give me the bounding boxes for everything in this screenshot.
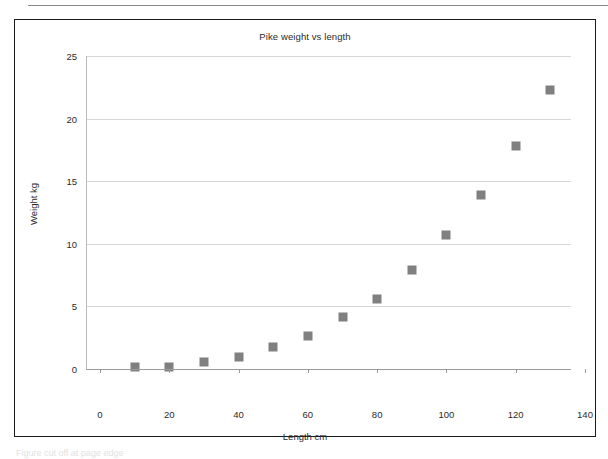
x-tick-mark <box>169 369 170 373</box>
x-tick-mark <box>100 369 101 373</box>
x-axis-title: Length cm <box>15 431 595 442</box>
y-tick-label: 5 <box>37 301 77 312</box>
x-tick-label: 60 <box>303 409 314 420</box>
y-tick-label: 0 <box>37 363 77 374</box>
y-tick-label: 20 <box>37 113 77 124</box>
x-tick-mark <box>516 369 517 373</box>
x-tick-mark <box>585 369 586 373</box>
clipped-caption: Figure cut off at page edge <box>16 449 436 459</box>
x-tick-mark <box>308 369 309 373</box>
y-tick-label: 15 <box>37 176 77 187</box>
x-tick-mark <box>446 369 447 373</box>
x-tick-mark <box>377 369 378 373</box>
page-canvas: Pike weight vs length Weight kg 05101520… <box>0 0 608 459</box>
x-tick-label: 120 <box>508 409 524 420</box>
figure-frame: Pike weight vs length Weight kg 05101520… <box>14 19 596 437</box>
x-tick-label: 100 <box>438 409 454 420</box>
x-tick-label: 40 <box>233 409 244 420</box>
x-tick-label: 20 <box>164 409 175 420</box>
y-tick-label: 10 <box>37 238 77 249</box>
x-tick-mark <box>239 369 240 373</box>
x-tick-label: 80 <box>372 409 383 420</box>
y-tick-label: 25 <box>37 51 77 62</box>
caption-text: Figure cut off at page edge <box>16 449 436 458</box>
x-tick-label: 140 <box>577 409 593 420</box>
y-tick-labels: 0510152025 <box>15 20 595 436</box>
x-tick-label: 0 <box>97 409 102 420</box>
top-horizontal-rule <box>28 5 608 6</box>
